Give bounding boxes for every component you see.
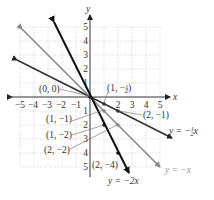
leader-lines <box>60 89 142 149</box>
svg-text:2: 2 <box>116 100 121 110</box>
svg-text:4: 4 <box>83 36 88 46</box>
svg-text:−5: −5 <box>15 100 25 110</box>
coordinate-plane: −5 −4 −3 −2 −1 2 3 4 5 5 4 3 2 1 1 2 3 4… <box>0 0 214 200</box>
equation-label-neg-x: y = −x <box>164 165 192 175</box>
point-label-origin: (0, 0) <box>39 84 60 95</box>
chart-area: −5 −4 −3 −2 −1 2 3 4 5 5 4 3 2 1 1 2 3 4… <box>0 0 214 200</box>
svg-text:1: 1 <box>83 106 88 116</box>
svg-text:−2: −2 <box>56 100 66 110</box>
svg-text:−3: −3 <box>42 100 52 110</box>
svg-text:5: 5 <box>83 162 88 172</box>
svg-text:−4: −4 <box>28 100 38 110</box>
point-label-1-neg-half: (1, −12) <box>107 83 131 95</box>
svg-text:5: 5 <box>83 22 88 32</box>
line-y-neg-half-x <box>17 60 172 138</box>
equation-label-neg-half-x: y = −12x <box>168 125 199 137</box>
y-axis-label: y <box>85 4 91 14</box>
svg-text:2: 2 <box>83 64 88 74</box>
point-label-1-neg-2: (1, −2) <box>46 130 72 141</box>
svg-text:4: 4 <box>83 148 88 158</box>
svg-text:3: 3 <box>83 50 88 60</box>
point-label-1-neg-1: (1, −1) <box>46 114 72 125</box>
point-label-2-neg-1: (2, −1) <box>143 110 169 121</box>
equation-label-neg-2x: y = −2x <box>107 176 140 186</box>
svg-text:2: 2 <box>83 120 88 130</box>
svg-text:5: 5 <box>158 100 163 110</box>
svg-text:4: 4 <box>144 100 149 110</box>
svg-text:3: 3 <box>83 134 88 144</box>
x-tick-labels: −5 −4 −3 −2 −1 2 3 4 5 <box>15 100 163 110</box>
point-label-2-neg-4: (2, −4) <box>92 160 118 171</box>
point-label-2-neg-2: (2, −2) <box>44 145 70 156</box>
svg-text:−1: −1 <box>71 100 81 110</box>
svg-text:3: 3 <box>130 100 135 110</box>
x-axis-label: x <box>172 92 178 102</box>
